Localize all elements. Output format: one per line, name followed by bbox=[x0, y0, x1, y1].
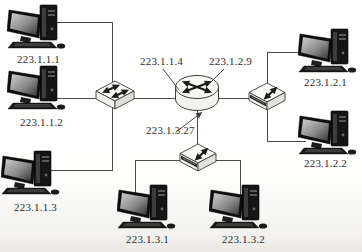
computer-icon bbox=[298, 108, 358, 158]
host-223-1-1-3 bbox=[1, 148, 61, 198]
network-diagram: 223.1.1.1 223.1.1.2 223.1.1.3 223.1.2.1 … bbox=[0, 0, 362, 252]
host-ip-label: 223.1.1.1 bbox=[17, 53, 60, 66]
router-interface-label: 223.1.2.9 bbox=[209, 55, 252, 68]
computer-icon bbox=[298, 26, 358, 76]
host-223-1-3-2 bbox=[209, 182, 269, 232]
hub-icon bbox=[177, 141, 219, 179]
host-ip-label: 223.1.1.3 bbox=[14, 201, 57, 214]
hub-bottom bbox=[177, 141, 219, 179]
router-interface-label: 223.1.3.27 bbox=[146, 124, 195, 137]
hub-right bbox=[246, 80, 288, 118]
computer-icon bbox=[7, 63, 67, 113]
host-ip-label: 223.1.1.2 bbox=[20, 116, 63, 129]
router bbox=[173, 72, 221, 114]
host-223-1-2-1 bbox=[298, 26, 358, 76]
router-icon bbox=[173, 72, 221, 114]
ethernet-switch bbox=[93, 78, 137, 118]
host-223-1-1-1 bbox=[7, 2, 67, 52]
host-ip-label: 223.1.2.2 bbox=[304, 157, 347, 170]
host-ip-label: 223.1.2.1 bbox=[304, 76, 347, 89]
switch-icon bbox=[93, 78, 137, 118]
hub-icon bbox=[246, 80, 288, 118]
host-223-1-2-2 bbox=[298, 108, 358, 158]
computer-icon bbox=[1, 148, 61, 198]
host-223-1-3-1 bbox=[117, 182, 177, 232]
computer-icon bbox=[209, 182, 269, 232]
host-ip-label: 223.1.3.2 bbox=[222, 233, 265, 246]
router-interface-label: 223.1.1.4 bbox=[140, 55, 183, 68]
computer-icon bbox=[7, 2, 67, 52]
host-ip-label: 223.1.3.1 bbox=[126, 233, 169, 246]
host-223-1-1-2 bbox=[7, 63, 67, 113]
computer-icon bbox=[117, 182, 177, 232]
